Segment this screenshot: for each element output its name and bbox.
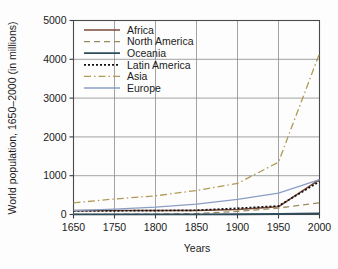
population-line-chart: World population, 1650–2000 (in millions…: [0, 0, 338, 269]
x-tick-label: 2000: [308, 221, 332, 233]
x-tick-label: 1950: [267, 221, 291, 233]
legend-label-oceania: Oceania: [127, 47, 166, 59]
x-tick-label: 1900: [226, 221, 250, 233]
y-tick-label: 3000: [43, 92, 67, 104]
legend-label-africa: Africa: [127, 24, 154, 36]
x-tick-label: 1750: [103, 221, 127, 233]
y-tick-label: 1000: [43, 169, 67, 181]
y-axis-title: World population, 1650–2000 (in millions…: [6, 21, 18, 214]
chart-container: World population, 1650–2000 (in millions…: [0, 0, 338, 269]
y-tick-label: 4000: [43, 53, 67, 65]
legend-label-north-america: North America: [127, 35, 194, 47]
y-tick-label: 0: [61, 208, 67, 220]
x-tick-label: 1850: [185, 221, 209, 233]
x-tick-label: 1650: [62, 221, 86, 233]
x-tick-label: 1800: [144, 221, 168, 233]
legend-label-asia: Asia: [127, 70, 148, 82]
y-tick-label: 5000: [43, 14, 67, 26]
legend-label-europe: Europe: [127, 82, 161, 94]
y-tick-label: 2000: [43, 131, 67, 143]
x-axis-title: Years: [184, 242, 210, 254]
legend-label-latin-america: Latin America: [127, 59, 191, 71]
